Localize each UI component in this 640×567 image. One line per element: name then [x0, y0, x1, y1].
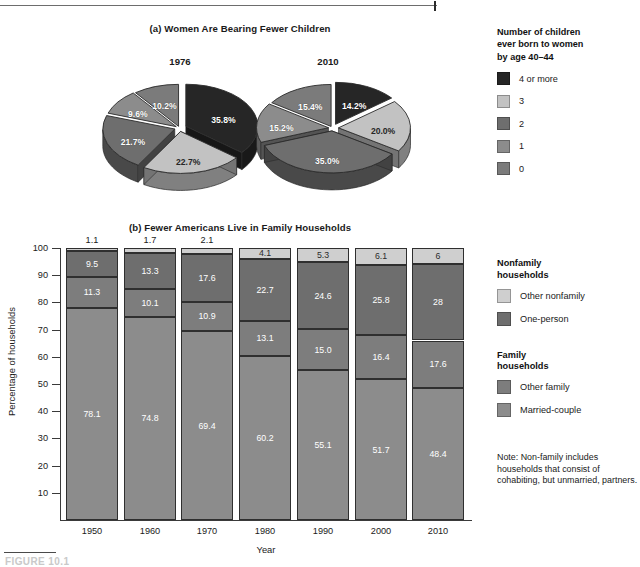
- y-tick-label: 10: [18, 488, 48, 498]
- bar-segment: 10.9: [181, 302, 233, 332]
- bar-segment-label: 17.6: [429, 359, 446, 369]
- bar-segment: 24.6: [297, 262, 349, 329]
- pie-svg: [92, 72, 267, 197]
- top-divider-rule: [0, 5, 437, 6]
- legend-swatch-4: [497, 162, 510, 175]
- legend-b-items-family: Other familyMarried-couple: [497, 380, 639, 417]
- y-tick: [52, 275, 60, 276]
- bar-segment: 5.3: [297, 248, 349, 262]
- y-tick: [52, 438, 60, 439]
- x-tick-label: 1950: [66, 526, 118, 536]
- bar-segment-label: 11.3: [84, 287, 100, 297]
- x-axis-title: Year: [60, 544, 472, 555]
- y-tick: [52, 330, 60, 331]
- legend-a-item: 3: [497, 95, 637, 108]
- legend-a-item: 0: [497, 162, 637, 175]
- bar-column: 74.810.113.3: [124, 248, 176, 520]
- legend-a-item-label: 2: [519, 119, 524, 129]
- y-tick-label: 60: [18, 352, 48, 362]
- legend-b-items-nonfamily: Other nonfamilyOne-person: [497, 289, 639, 326]
- pie-slice-value-label: 15.2%: [269, 123, 293, 133]
- legend-a-items: 4 or more3210: [497, 72, 637, 175]
- legend-a-item-label: 0: [519, 164, 524, 174]
- bar-segment: [124, 248, 176, 253]
- x-tick-label: 1980: [239, 526, 291, 536]
- bar-segment: 48.4: [412, 388, 464, 520]
- legend-b-item-label: Other family: [520, 382, 570, 392]
- bar-segment-label: 51.7: [372, 445, 389, 455]
- bar-segment-label: 4.1: [259, 248, 271, 258]
- bar-segment: 13.3: [124, 253, 176, 289]
- bar-segment: 9.5: [66, 251, 118, 277]
- pie-chart-2010: 14.2%20.0%35.0%15.2%15.4%: [245, 72, 420, 197]
- pie-slice-value-label: 35.0%: [315, 156, 339, 166]
- legend-b-item-label: One-person: [520, 314, 569, 324]
- bar-segment-label: 9.5: [86, 259, 98, 269]
- bar-segment: 15.0: [297, 329, 349, 370]
- legend-household-types: Nonfamily households Other nonfamilyOne-…: [497, 258, 639, 426]
- stacked-bar-chart: 102030405060708090100 78.111.39.574.810.…: [0, 236, 480, 536]
- y-tick: [52, 357, 60, 358]
- bar-column: 60.213.122.74.1: [239, 248, 291, 520]
- legend-b-heading-nonfamily: Nonfamily households: [497, 258, 639, 282]
- bar-segment: 22.7: [239, 259, 291, 321]
- panel-a-title: (a) Women Are Bearing Fewer Children: [0, 23, 480, 34]
- legend-b-item: Other nonfamily: [497, 289, 639, 303]
- legend-b-item-label: Married-couple: [520, 405, 581, 415]
- legend-swatch-0: [497, 72, 510, 85]
- y-tick: [52, 411, 60, 412]
- bar-segment-label: 25.8: [372, 295, 389, 305]
- bar-top-value-label: 1.1: [66, 235, 118, 245]
- bar-top-value-label: 1.7: [124, 235, 176, 245]
- bar-segment: 17.6: [181, 254, 233, 302]
- pie-slice-value-label: 9.6%: [128, 109, 148, 119]
- bar-column: 78.111.39.5: [66, 248, 118, 520]
- y-tick: [52, 302, 60, 303]
- legend-b-item: One-person: [497, 312, 639, 326]
- bar-column: 48.417.6286: [412, 248, 464, 520]
- bar-segment-label: 10.1: [141, 298, 158, 308]
- legend-a-item: 1: [497, 140, 637, 153]
- legend-a-item-label: 3: [519, 96, 524, 106]
- bar-segment-label: 16.4: [372, 352, 389, 362]
- y-tick-label: 30: [18, 433, 48, 443]
- legend-b-item: Other family: [497, 380, 639, 394]
- y-tick-label: 80: [18, 297, 48, 307]
- y-tick-label: 90: [18, 270, 48, 280]
- bar-segment-label: 28: [433, 297, 443, 307]
- bar-top-value-label: 2.1: [181, 235, 233, 245]
- bar-segment-label: 10.9: [198, 311, 215, 321]
- y-tick: [52, 248, 60, 249]
- pie-2010-title: 2010: [298, 56, 358, 67]
- legend-a-item-label: 1: [519, 141, 524, 151]
- bar-segment: [181, 248, 233, 254]
- pie-slice-value-label: 22.7%: [176, 157, 200, 167]
- bar-segment-label: 13.3: [141, 266, 158, 276]
- pie-chart-1976: 35.8%22.7%21.7%9.6%10.2%: [92, 72, 267, 197]
- x-tick-label: 1970: [181, 526, 233, 536]
- bar-segment: 55.1: [297, 370, 349, 520]
- figure-caption: FIGURE 10.1: [5, 556, 69, 567]
- chart-note: Note: Non-family includes households tha…: [497, 452, 640, 487]
- panel-b-title: (b) Fewer Americans Live in Family House…: [0, 222, 480, 233]
- bar-column: 55.115.024.65.3: [297, 248, 349, 520]
- pie-slice-value-label: 10.2%: [152, 101, 176, 111]
- bar-column: 51.716.425.86.1: [355, 248, 407, 520]
- bar-segment: 51.7: [355, 379, 407, 520]
- x-tick-label: 2000: [355, 526, 407, 536]
- figure-caption-rule: [4, 552, 56, 553]
- bar-segment-label: 60.2: [256, 433, 273, 443]
- y-tick: [52, 384, 60, 385]
- pie-slice-value-label: 20.0%: [371, 126, 395, 136]
- pie-slice-value-label: 14.2%: [342, 101, 366, 111]
- legend-children-ever-born: Number of children ever born to women by…: [497, 26, 637, 185]
- top-divider-endcap: [434, 1, 436, 11]
- legend-swatch-3: [497, 140, 510, 153]
- legend-b-spacer: [497, 335, 639, 350]
- legend-swatch-group2_items-0: [497, 380, 511, 394]
- bar-column: 69.410.917.6: [181, 248, 233, 520]
- legend-a-item: 4 or more: [497, 72, 637, 85]
- y-tick-label: 20: [18, 461, 48, 471]
- x-axis-line: [60, 520, 472, 521]
- bar-segment: 74.8: [124, 317, 176, 520]
